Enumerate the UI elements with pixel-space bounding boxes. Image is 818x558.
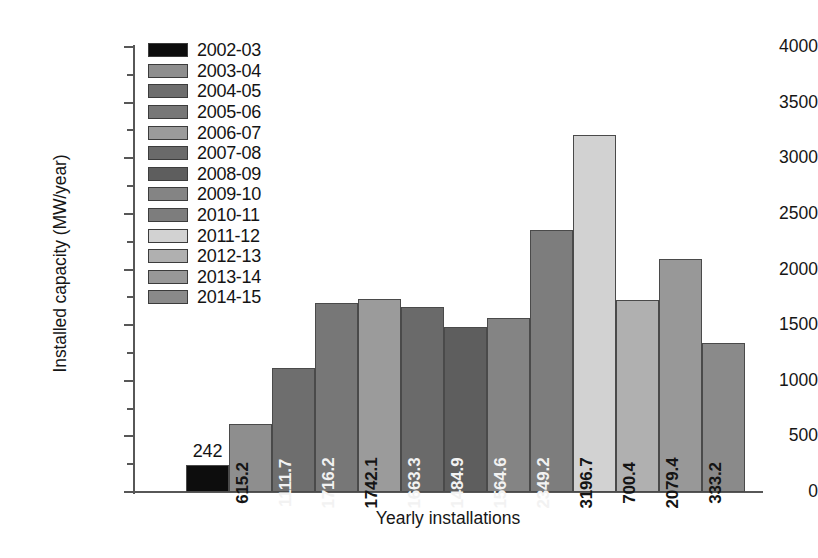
legend-item-2009-10[interactable]: 2009-10 <box>148 184 261 205</box>
bar-2009-10[interactable]: 1564.6 <box>487 318 530 492</box>
bar-2002-03[interactable] <box>186 465 229 492</box>
y-tick-major <box>124 380 133 382</box>
legend-swatch-icon <box>148 84 188 98</box>
legend-swatch-icon <box>148 249 188 263</box>
y-tick-major <box>124 46 133 48</box>
legend-item-label: 2011-12 <box>197 227 260 245</box>
bar-2010-11[interactable]: 2349.2 <box>530 230 573 492</box>
legend-item-2005-06[interactable]: 2005-06 <box>148 102 261 123</box>
legend-item-2010-11[interactable]: 2010-11 <box>148 205 261 226</box>
legend-swatch-icon <box>148 167 188 181</box>
bar-2007-08[interactable]: 1663.3 <box>401 307 444 492</box>
y-tick-major <box>124 491 133 493</box>
chart-legend: 2002-032003-042004-052005-062006-072007-… <box>148 40 261 308</box>
bar-value-label: 1564.6 <box>492 458 509 509</box>
bar-2011-12[interactable]: 3196.7 <box>573 135 616 492</box>
bar-2005-06[interactable]: 1716.2 <box>315 303 358 492</box>
legend-item-2008-09[interactable]: 2008-09 <box>148 164 261 185</box>
bar-value-label: 2079.4 <box>664 458 681 509</box>
legend-item-2004-05[interactable]: 2004-05 <box>148 81 261 102</box>
legend-item-2007-08[interactable]: 2007-08 <box>148 143 261 164</box>
legend-item-label: 2005-06 <box>197 103 261 121</box>
y-tick-major <box>124 435 133 437</box>
legend-item-label: 2010-11 <box>197 206 260 224</box>
y-tick-major <box>124 324 133 326</box>
bar-value-label: 1663.3 <box>406 458 423 509</box>
legend-item-2002-03[interactable]: 2002-03 <box>148 40 261 61</box>
legend-swatch-icon <box>148 105 188 119</box>
legend-item-label: 2013-14 <box>197 268 261 286</box>
bar-2003-04[interactable]: 615.2 <box>229 424 272 492</box>
legend-item-2006-07[interactable]: 2006-07 <box>148 122 261 143</box>
legend-item-label: 2009-10 <box>197 185 261 203</box>
legend-swatch-icon <box>148 187 188 201</box>
legend-item-2014-15[interactable]: 2014-15 <box>148 287 261 308</box>
bar-value-label: 1716.2 <box>320 458 337 509</box>
legend-swatch-icon <box>148 229 188 243</box>
legend-item-label: 2012-13 <box>197 247 261 265</box>
bar-value-label: 1742.1 <box>363 458 380 509</box>
bar-2004-05[interactable]: 1111.7 <box>272 368 315 492</box>
bar-2014-15[interactable]: 333.2 <box>702 343 745 492</box>
bar-chart-figure: Installed capacity (MW/year) 05001000150… <box>0 0 818 558</box>
legend-swatch-icon <box>148 290 188 304</box>
legend-item-label: 2014-15 <box>197 288 261 306</box>
legend-item-label: 2004-05 <box>197 82 261 100</box>
legend-item-2013-14[interactable]: 2013-14 <box>148 267 261 288</box>
bar-value-label: 700.4 <box>621 462 638 504</box>
y-axis-title: Installed capacity (MW/year) <box>50 34 71 494</box>
legend-swatch-icon <box>148 64 188 78</box>
legend-swatch-icon <box>148 146 188 160</box>
legend-item-label: 2007-08 <box>197 144 261 162</box>
legend-swatch-icon <box>148 43 188 57</box>
bar-value-label: 1484.9 <box>449 458 466 509</box>
y-tick-major <box>124 269 133 271</box>
legend-item-label: 2008-09 <box>197 165 261 183</box>
x-axis-title: Yearly installations <box>133 508 763 529</box>
bar-value-label: 242 <box>193 442 222 460</box>
bar-value-label: 2349.2 <box>535 458 552 509</box>
bar-2006-07[interactable]: 1742.1 <box>358 299 401 492</box>
y-tick-major <box>124 157 133 159</box>
legend-swatch-icon <box>148 270 188 284</box>
legend-item-label: 2003-04 <box>197 62 261 80</box>
legend-swatch-icon <box>148 208 188 222</box>
legend-item-2011-12[interactable]: 2011-12 <box>148 225 261 246</box>
bar-value-label: 615.2 <box>234 462 251 504</box>
y-tick-major <box>124 213 133 215</box>
bar-2008-09[interactable]: 1484.9 <box>444 327 487 492</box>
bar-2013-14[interactable]: 2079.4 <box>659 259 702 492</box>
bar-value-label: 1111.7 <box>277 459 294 507</box>
legend-item-label: 2002-03 <box>197 41 261 59</box>
legend-item-2012-13[interactable]: 2012-13 <box>148 246 261 267</box>
legend-item-2003-04[interactable]: 2003-04 <box>148 61 261 82</box>
bar-value-label: 333.2 <box>707 462 724 504</box>
legend-swatch-icon <box>148 126 188 140</box>
bar-value-label: 3196.7 <box>578 458 595 509</box>
bar-2012-13[interactable]: 700.4 <box>616 300 659 492</box>
legend-item-label: 2006-07 <box>197 124 261 142</box>
y-tick-major <box>124 102 133 104</box>
